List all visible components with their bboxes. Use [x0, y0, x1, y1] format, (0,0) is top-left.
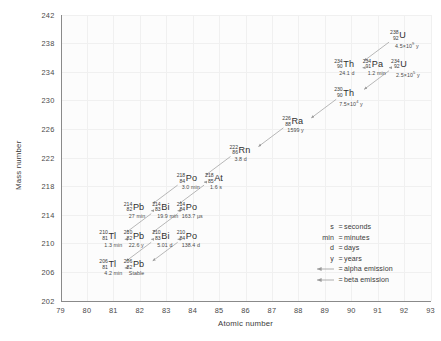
legend-equals: = — [337, 265, 344, 273]
atomic-number: 84 — [179, 236, 185, 242]
half-life: Stable — [124, 271, 145, 276]
legend-emission-row: =beta emission — [300, 275, 393, 286]
nuclide-label: 21484Po163.7 µs — [177, 202, 203, 220]
legend-unit-row: y=years — [300, 254, 393, 265]
element-symbol: Tl — [108, 232, 116, 241]
element-symbol: Th — [343, 60, 354, 69]
legend-unit-row: min=minutes — [300, 233, 393, 244]
nuclide-numbers: 21483 — [152, 202, 161, 214]
half-life: 138.4 d — [177, 243, 200, 248]
nuclide-numbers: 21084 — [177, 230, 186, 242]
element-symbol: Th — [343, 89, 354, 98]
nuclide-numbers: 21082 — [124, 230, 133, 242]
legend-unit-key: min — [300, 234, 337, 242]
nuclide-numbers: 21885 — [205, 173, 214, 185]
atomic-number: 90 — [337, 93, 343, 99]
element-symbol: Tl — [108, 260, 116, 269]
nuclide-numbers: 20681 — [99, 259, 108, 271]
nuclide-label: 23490Th24.1 d — [334, 59, 354, 77]
nuclide-numbers: 23892 — [390, 30, 399, 42]
nuclide-label: 23491Pa1.2 min — [363, 59, 386, 77]
half-life: 4.2 min — [99, 271, 122, 276]
atomic-number: 81 — [102, 236, 108, 242]
half-life: 1.3 min — [99, 243, 122, 248]
nuclide-label: 21082Pb22.6 y — [124, 230, 144, 248]
half-life: 1.2 min — [363, 71, 386, 76]
nuclide-label: 23090Th7.5×104 y — [334, 87, 363, 106]
half-life: 7.5×104 y — [334, 100, 363, 107]
nuclide-numbers: 21482 — [124, 202, 133, 214]
alpha-arrow-icon — [300, 266, 337, 272]
nuclide-label: 21483Bi19.9 min — [152, 202, 178, 220]
half-life: 4.5×109 y — [390, 42, 419, 49]
half-life: 163.7 µs — [177, 214, 203, 219]
nuclide-numbers: 23491 — [363, 59, 372, 71]
legend-unit-value: minutes — [344, 234, 370, 242]
nuclide-label: 21083Bi5.01 d — [152, 230, 172, 248]
half-life: 19.9 min — [152, 214, 178, 219]
legend-unit-value: days — [344, 244, 359, 252]
legend-equals: = — [337, 244, 344, 252]
element-symbol: Po — [186, 203, 197, 212]
legend-unit-value: years — [344, 255, 362, 263]
nuclide-label: 23892U4.5×109 y — [390, 30, 419, 49]
legend: s=secondsmin=minutesd=daysy=years=alpha … — [300, 222, 393, 285]
half-life: 3.8 d — [230, 157, 251, 162]
nuclide-numbers: 23490 — [334, 59, 343, 71]
element-symbol: Rn — [239, 146, 251, 155]
half-life: 27 min — [124, 214, 146, 219]
nuclide-label: 22286Rn3.8 d — [230, 145, 251, 163]
nuclide-numbers: 21083 — [152, 230, 161, 242]
half-life: 1.6 s — [205, 185, 223, 190]
element-symbol: Pb — [133, 203, 144, 212]
nuclide-numbers: 22286 — [230, 145, 239, 157]
element-symbol: At — [214, 174, 223, 183]
atomic-number: 83 — [155, 236, 161, 242]
half-life: 22.6 y — [124, 243, 144, 248]
nuclide-numbers: 21081 — [99, 230, 108, 242]
nuclide-numbers: 21484 — [177, 202, 186, 214]
decay-chain-chart: 202206210214218222226230234238242 798081… — [0, 0, 441, 341]
nuclide-numbers: 23090 — [334, 87, 343, 99]
alpha-decay-arrow — [311, 99, 336, 118]
element-symbol: Po — [186, 232, 197, 241]
nuclide-label: 23492U2.5×105 y — [391, 59, 420, 78]
half-life: 3.0 min — [177, 185, 200, 190]
atomic-number: 82 — [127, 236, 133, 242]
nuclide-label: 22688Ra1599 y — [282, 116, 304, 134]
nuclide-label: 21084Po138.4 d — [177, 230, 200, 248]
nuclide-label: 21081Tl1.3 min — [99, 230, 122, 248]
element-symbol: Ra — [291, 117, 303, 126]
element-symbol: Bi — [161, 232, 169, 241]
atomic-number: 92 — [393, 36, 399, 42]
element-symbol: Pa — [372, 60, 383, 69]
half-life: 2.5×105 y — [391, 71, 420, 78]
nuclide-numbers: 23492 — [391, 59, 400, 71]
legend-equals: = — [337, 255, 344, 263]
legend-equals: = — [337, 223, 344, 231]
legend-equals: = — [337, 276, 344, 284]
legend-emission-row: =alpha emission — [300, 264, 393, 275]
element-symbol: Pb — [133, 232, 144, 241]
legend-unit-key: d — [300, 244, 337, 252]
legend-unit-key: s — [300, 223, 337, 231]
nuclide-label: 21884Po3.0 min — [177, 173, 200, 191]
beta-arrow-icon — [300, 277, 337, 283]
element-symbol: U — [399, 31, 406, 40]
half-life: 24.1 d — [334, 71, 354, 76]
legend-emission-value: beta emission — [344, 276, 389, 284]
legend-unit-row: s=seconds — [300, 222, 393, 233]
legend-unit-value: seconds — [344, 223, 371, 231]
atomic-number: 92 — [394, 64, 400, 70]
legend-equals: = — [337, 234, 344, 242]
nuclide-label: 20682PbStable — [124, 259, 145, 277]
nuclide-numbers: 21884 — [177, 173, 186, 185]
legend-emission-value: alpha emission — [344, 265, 393, 273]
element-symbol: Bi — [161, 203, 169, 212]
nuclide-label: 21482Pb27 min — [124, 202, 146, 220]
element-symbol: Pb — [133, 260, 144, 269]
decay-arrows — [0, 0, 441, 341]
legend-unit-key: y — [300, 255, 337, 263]
nuclide-numbers: 22688 — [282, 116, 291, 128]
legend-unit-row: d=days — [300, 243, 393, 254]
